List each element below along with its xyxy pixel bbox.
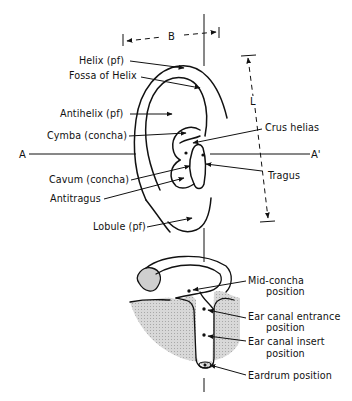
label-crus-helias: Crus helias xyxy=(265,122,319,133)
label-mid-concha: Mid-concha xyxy=(248,275,304,286)
label-eardrum: Eardrum position xyxy=(248,370,332,381)
horizontal-axis-a: A A' xyxy=(19,149,321,160)
tragus xyxy=(190,145,206,189)
lobule xyxy=(168,198,211,232)
label-fossa-of-helix: Fossa of Helix xyxy=(69,70,137,81)
label-canal-entrance: Ear canal entrance xyxy=(248,311,340,322)
label-mid-concha-position: position xyxy=(266,286,305,297)
length-label: L xyxy=(250,96,256,107)
ear-anatomy-diagram: B L A A' xyxy=(0,0,352,401)
label-tragus: Tragus xyxy=(267,170,300,181)
label-antitragus: Antitragus xyxy=(50,193,101,204)
length-dimension: L xyxy=(241,55,275,222)
concha-blob xyxy=(137,268,160,291)
left-leader-lines xyxy=(104,61,200,227)
label-canal-insert-position: position xyxy=(266,348,305,359)
axis-left-label: A xyxy=(19,149,26,160)
tissue-shading xyxy=(130,291,240,368)
ear-canal-cross-section xyxy=(130,256,240,368)
label-canal-insert: Ear canal insert xyxy=(248,336,325,347)
canal-insert-dot xyxy=(202,333,205,336)
label-canal-entrance-position: position xyxy=(266,322,305,333)
outer-ear-drawing xyxy=(134,66,227,232)
label-cavum: Cavum (concha) xyxy=(49,174,129,185)
eardrum-dot xyxy=(204,364,207,367)
antihelix-curve xyxy=(173,127,200,160)
helix-inner xyxy=(146,200,170,232)
canal-entrance-dot xyxy=(202,307,205,310)
breadth-dimension: B xyxy=(123,27,219,46)
label-cymba: Cymba (concha) xyxy=(47,130,127,141)
breadth-label: B xyxy=(168,31,175,42)
label-antihelix: Antihelix (pf) xyxy=(60,108,123,119)
mid-concha-dot xyxy=(187,289,190,292)
label-helix: Helix (pf) xyxy=(79,55,124,66)
label-lobule: Lobule (pf) xyxy=(93,221,146,232)
axis-right-label: A' xyxy=(311,149,321,160)
